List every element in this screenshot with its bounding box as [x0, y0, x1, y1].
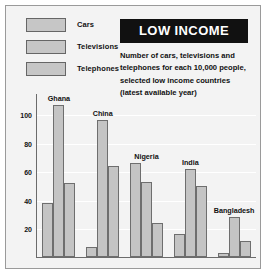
bar-cars	[174, 234, 185, 257]
chart-frame: Cars Televisions Telephones LOW INCOME N…	[5, 5, 261, 269]
category-label: Ghana	[48, 94, 70, 103]
bar-telephones	[196, 186, 207, 257]
bar-televisions	[53, 105, 64, 257]
category-label: Bangladesh	[214, 206, 255, 215]
bar-cars	[42, 203, 53, 257]
category-label: Nigeria	[134, 152, 158, 161]
bars	[168, 94, 212, 257]
y-tick-label: 100	[20, 112, 32, 119]
bars	[81, 94, 125, 257]
bar-telephones	[152, 223, 163, 257]
legend-label-cars: Cars	[77, 20, 94, 29]
bar-telephones	[240, 241, 251, 257]
bar-group: Nigeria	[125, 94, 169, 257]
legend-swatch-telephones	[26, 62, 66, 76]
bar-group: China	[81, 94, 125, 257]
bar-group: Bangladesh	[212, 94, 256, 257]
y-tick-label: 80	[24, 140, 32, 147]
bar-groups: GhanaChinaNigeriaIndiaBangladesh	[37, 94, 256, 257]
plot-area: 20406080100 GhanaChinaNigeriaIndiaBangla…	[36, 94, 256, 258]
bars	[125, 94, 169, 257]
bar-televisions	[97, 120, 108, 257]
bar-telephones	[64, 183, 75, 257]
bar-televisions	[141, 182, 152, 257]
legend-item-telephones: Telephones	[26, 60, 119, 77]
y-tick-label: 40	[24, 197, 32, 204]
category-label: China	[93, 109, 113, 118]
bar-cars	[130, 163, 141, 257]
chart-description: Number of cars, televisions and telephon…	[120, 50, 248, 99]
bars	[212, 94, 256, 257]
bar-telephones	[108, 166, 119, 257]
bar-televisions	[185, 169, 196, 257]
bar-cars	[218, 253, 229, 257]
bar-group: India	[168, 94, 212, 257]
legend-label-televisions: Televisions	[77, 42, 118, 51]
chart-title-banner: LOW INCOME	[120, 19, 248, 43]
chart-figure: Cars Televisions Telephones LOW INCOME N…	[0, 0, 266, 274]
y-tick-label: 20	[24, 226, 32, 233]
legend-swatch-cars	[26, 18, 66, 32]
bar-group: Ghana	[37, 94, 81, 257]
bars	[37, 94, 81, 257]
bar-televisions	[229, 217, 240, 257]
x-axis-line	[36, 257, 256, 258]
bar-cars	[86, 247, 97, 257]
legend-label-telephones: Telephones	[77, 64, 119, 73]
legend-item-cars: Cars	[26, 16, 119, 33]
title-block: LOW INCOME Number of cars, televisions a…	[120, 19, 248, 99]
category-label: India	[182, 158, 199, 167]
legend-item-televisions: Televisions	[26, 38, 119, 55]
chart-legend: Cars Televisions Telephones	[26, 16, 119, 82]
y-tick-label: 60	[24, 169, 32, 176]
legend-swatch-televisions	[26, 40, 66, 54]
